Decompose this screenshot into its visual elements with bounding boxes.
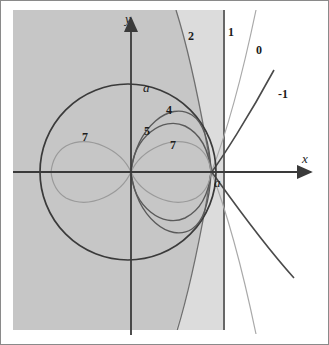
curve-label-7-left: 7 [82, 131, 88, 143]
curve-label-2: 2 [188, 30, 194, 42]
dark-shaded-region [13, 10, 212, 330]
curve-label-0: 0 [256, 44, 262, 56]
point-a-on-x-axis-label: a [214, 176, 221, 189]
curve-label-1: 1 [228, 26, 234, 38]
curve-label-4: 4 [166, 104, 172, 116]
sinusoidal-spirals-figure: y x a a 2 1 0 -1 4 5 7 7 [0, 0, 329, 345]
y-axis-label: y [125, 12, 131, 25]
curve-label-7-right: 7 [170, 139, 176, 151]
figure-canvas [0, 0, 329, 345]
point-a-on-y-axis-label: a [143, 81, 150, 94]
curve-label-5: 5 [144, 125, 150, 137]
curve-label-minus1: -1 [278, 88, 288, 100]
x-axis-label: x [302, 152, 308, 165]
